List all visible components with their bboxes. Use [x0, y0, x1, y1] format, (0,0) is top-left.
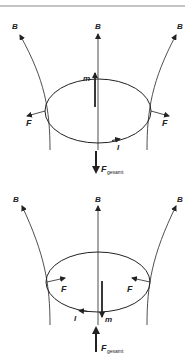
force-label-left: F	[26, 118, 32, 128]
b-label-right: B	[177, 195, 183, 204]
field-line-right	[147, 35, 176, 150]
force-arrow-right	[132, 278, 150, 282]
current-label: I	[74, 314, 77, 323]
current-direction-arrow	[79, 311, 88, 312]
total-force-subscript: gesamt	[107, 169, 124, 175]
panel-top: m F F B B B I F gesamt	[12, 22, 183, 175]
moment-label: m	[105, 315, 112, 324]
field-line-right	[147, 206, 176, 325]
field-line-left	[20, 35, 50, 150]
moment-label: m	[83, 74, 90, 83]
total-force-subscript: gesamt	[107, 348, 124, 354]
b-label-right: B	[177, 22, 183, 31]
current-label: I	[117, 143, 120, 152]
b-label-center: B	[95, 195, 101, 204]
panel-bottom: m F F B B B I F gesamt	[13, 195, 183, 354]
force-arrow-left	[27, 111, 45, 116]
b-label-left: B	[13, 195, 19, 204]
b-label-center: B	[95, 22, 101, 31]
force-label-left: F	[61, 284, 67, 294]
force-label-right: F	[127, 284, 133, 294]
diagram-canvas: m F F B B B I F gesamt m F F	[0, 0, 193, 363]
force-label-right: F	[162, 118, 168, 128]
force-arrow-right	[151, 111, 169, 116]
force-arrow-left	[47, 278, 65, 282]
field-line-left	[22, 206, 50, 325]
b-label-left: B	[12, 22, 18, 31]
